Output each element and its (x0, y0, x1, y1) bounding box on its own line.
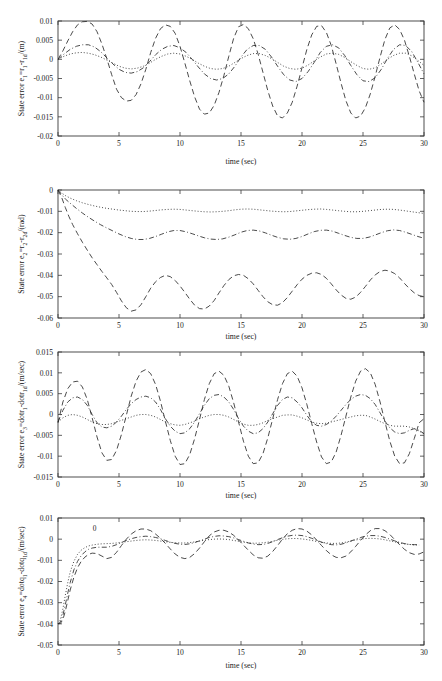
figure-page: 0.010.0050-0.005-0.01-0.015-0.0205101520… (0, 0, 442, 681)
y-tick-label: -0.03 (37, 250, 53, 259)
x-tick-label: 0 (56, 480, 60, 489)
y-axis-label: State error e2=r2-r2d/(rad) (17, 214, 28, 294)
x-tick-label: 25 (359, 480, 367, 489)
plot-frame (58, 518, 424, 645)
x-axis-label: time (sec) (226, 491, 257, 500)
x-tick-label: 5 (117, 480, 121, 489)
y-axis-label: State error e4=dotq1-dotq1d/(m/sec) (17, 526, 28, 636)
y-axis-label-part: State error e (17, 78, 26, 117)
series-small-amplitude (58, 52, 424, 69)
y-axis-label-part: /(rad) (17, 214, 26, 232)
y-tick-label: -0.005 (33, 431, 53, 440)
chart-panel-2: 0-0.01-0.02-0.03-0.04-0.05-0.06051015202… (0, 178, 442, 353)
y-axis-label-part: =dotr (17, 410, 26, 427)
y-tick-label: 0.005 (36, 36, 53, 45)
y-axis-label-part: -dotr (17, 392, 26, 408)
x-tick-label: 25 (359, 139, 367, 148)
y-tick-label: 0 (49, 186, 53, 195)
chart-panel-4: 0.010-0.01-0.02-0.03-0.04-0.050510152025… (0, 508, 442, 681)
x-tick-label: 10 (176, 648, 184, 657)
y-tick-label: -0.02 (37, 228, 53, 237)
plot-frame (58, 21, 424, 136)
x-tick-label: 30 (420, 480, 428, 489)
x-tick-label: 30 (420, 648, 428, 657)
y-axis-label: State error e3=dotr1-dotr1d/(m/sec) (17, 360, 28, 468)
inner-zero-label: 0 (93, 524, 97, 533)
y-tick-label: -0.05 (37, 641, 53, 650)
y-tick-label: 0 (49, 55, 53, 64)
x-tick-label: 30 (420, 321, 428, 330)
chart-panel-3: 0.0150.010.0050-0.005-0.01-0.01505101520… (0, 340, 442, 512)
x-tick-label: 30 (420, 139, 428, 148)
y-tick-label: -0.01 (37, 452, 53, 461)
y-axis-label-part: /(m) (17, 40, 26, 54)
plot-frame (58, 352, 424, 477)
y-axis-label-part: State error e (17, 255, 26, 294)
series-medium-amplitude (58, 190, 424, 239)
x-axis-label: time (sec) (226, 661, 257, 670)
y-tick-label: -0.015 (33, 113, 53, 122)
y-axis-label-part: State error e (17, 598, 26, 637)
x-tick-label: 25 (359, 321, 367, 330)
y-tick-label: -0.05 (37, 292, 53, 301)
y-tick-label: -0.02 (37, 132, 53, 141)
x-tick-label: 20 (298, 648, 306, 657)
y-tick-label: 0 (49, 535, 53, 544)
y-axis-label: State error e1=r1-r1d/(m) (17, 40, 28, 116)
y-tick-label: -0.03 (37, 598, 53, 607)
y-tick-label: -0.01 (37, 93, 53, 102)
y-axis-label-part: /(m/sec) (17, 526, 26, 552)
y-tick-label: -0.04 (37, 271, 53, 280)
y-tick-label: 0.01 (40, 514, 53, 523)
y-axis-label-part: =dotq (17, 577, 26, 595)
series-medium-amplitude (58, 45, 424, 82)
y-tick-label: 0.015 (36, 348, 53, 357)
series-small-amplitude (58, 538, 419, 624)
x-tick-label: 0 (56, 321, 60, 330)
x-tick-label: 10 (176, 139, 184, 148)
x-tick-label: 25 (359, 648, 367, 657)
series-medium-amplitude (58, 395, 424, 434)
x-tick-label: 15 (237, 648, 245, 657)
x-tick-label: 15 (237, 480, 245, 489)
y-tick-label: -0.005 (33, 74, 53, 83)
x-tick-label: 15 (237, 321, 245, 330)
series-large-amplitude (58, 190, 424, 311)
y-tick-label: 0 (49, 410, 53, 419)
series-large-amplitude (58, 529, 424, 624)
plot-frame (58, 190, 424, 318)
y-tick-label: -0.01 (37, 207, 53, 216)
x-tick-label: 0 (56, 139, 60, 148)
x-axis-label: time (sec) (226, 157, 257, 166)
x-tick-label: 0 (56, 648, 60, 657)
y-axis-label-part: -dotq (17, 558, 26, 575)
x-tick-label: 5 (117, 321, 121, 330)
y-tick-label: -0.02 (37, 577, 53, 586)
x-tick-label: 5 (117, 648, 121, 657)
series-large-amplitude (58, 21, 424, 118)
x-tick-label: 20 (298, 139, 306, 148)
y-axis-label-part: /(m/sec) (17, 360, 26, 386)
y-axis-label-part: State error e (17, 430, 26, 469)
chart-panel-1: 0.010.0050-0.005-0.01-0.015-0.0205101520… (0, 8, 442, 178)
x-tick-label: 5 (117, 139, 121, 148)
series-medium-amplitude (58, 535, 419, 624)
y-tick-label: 0.005 (36, 389, 53, 398)
y-tick-label: -0.01 (37, 556, 53, 565)
x-tick-label: 20 (298, 480, 306, 489)
y-tick-label: -0.04 (37, 620, 53, 629)
y-tick-label: -0.06 (37, 314, 53, 323)
y-tick-label: 0.01 (40, 369, 53, 378)
x-tick-label: 10 (176, 480, 184, 489)
x-tick-label: 20 (298, 321, 306, 330)
x-tick-label: 15 (237, 139, 245, 148)
y-tick-label: -0.015 (33, 473, 53, 482)
x-tick-label: 10 (176, 321, 184, 330)
y-tick-label: 0.01 (40, 17, 53, 26)
